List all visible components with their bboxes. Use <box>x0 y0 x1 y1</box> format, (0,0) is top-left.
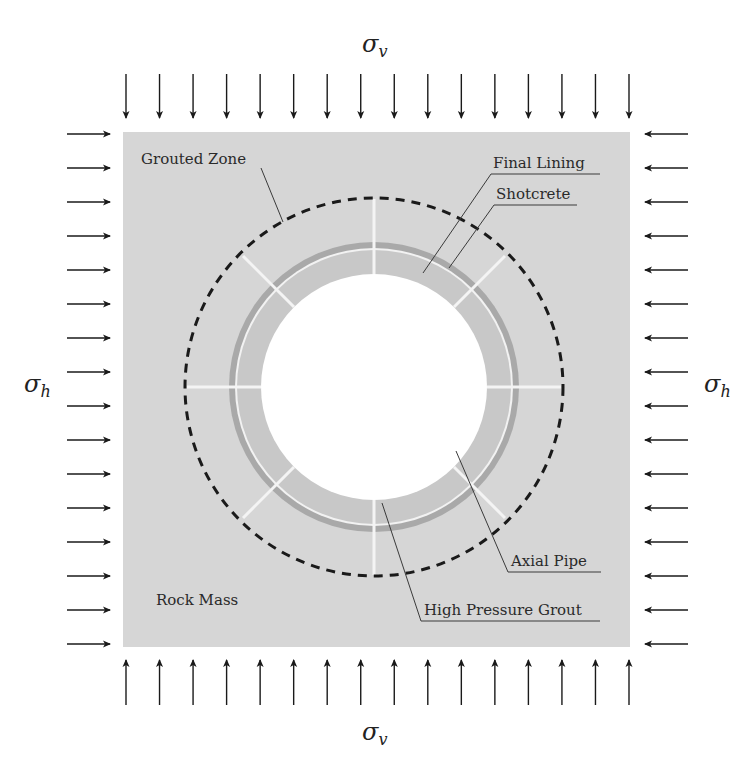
tunnel-diagram: Grouted Zone Final Lining Shotcrete Axia… <box>0 0 753 775</box>
sigma-v-top: σv <box>362 30 387 61</box>
sigma-h-right: σh <box>704 370 731 401</box>
sigma-v-bottom: σv <box>362 718 387 749</box>
horizontal-stress-arrows-left <box>67 134 110 644</box>
tunnel-void <box>261 274 487 500</box>
label-high-pressure-grout: High Pressure Grout <box>424 601 582 619</box>
horizontal-stress-arrows-right <box>645 134 688 644</box>
label-rock-mass: Rock Mass <box>156 591 238 609</box>
label-final-lining: Final Lining <box>493 154 585 172</box>
vertical-stress-arrows-top <box>126 74 629 118</box>
label-axial-pipe: Axial Pipe <box>510 552 587 570</box>
sigma-h-left: σh <box>24 370 51 401</box>
label-grouted-zone: Grouted Zone <box>141 150 246 168</box>
label-shotcrete: Shotcrete <box>496 185 570 203</box>
vertical-stress-arrows-bottom <box>126 660 629 705</box>
